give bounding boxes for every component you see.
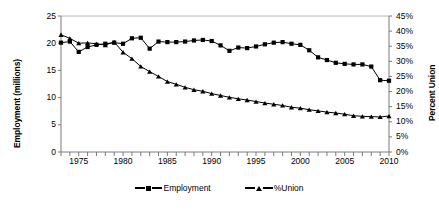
x-tick-label: 2005 [325, 157, 365, 166]
data-point-marker [192, 38, 196, 42]
y-tick-label: 10 [34, 93, 56, 102]
series-employment [59, 36, 391, 83]
data-point-marker [298, 43, 302, 47]
data-point-marker [325, 58, 329, 62]
x-tick-label: 1975 [59, 157, 99, 166]
data-point-marker [165, 40, 169, 44]
data-point-marker [67, 36, 72, 40]
legend-item-percent-union[interactable]: %Union [245, 183, 304, 193]
data-point-marker [343, 62, 347, 66]
data-point-marker [85, 45, 89, 49]
y2-tick-label: 15% [396, 102, 413, 111]
legend-line-icon [152, 187, 162, 188]
data-point-marker [130, 36, 134, 40]
legend-line-icon [135, 187, 145, 188]
x-tick-label: 1995 [236, 157, 276, 166]
square-marker-icon [146, 186, 151, 191]
series-line [61, 35, 389, 117]
data-point-marker [210, 39, 214, 43]
x-tick-label: 2000 [280, 157, 320, 166]
y2-tick-label: 10% [396, 117, 413, 126]
data-point-marker [201, 38, 205, 42]
legend-line-icon [263, 187, 273, 188]
data-point-marker [369, 64, 373, 68]
y-axis-title-right: Percent Union [427, 65, 437, 121]
data-point-marker [227, 49, 231, 53]
data-point-marker [360, 62, 364, 66]
x-tick-label: 1990 [192, 157, 232, 166]
data-point-marker [218, 43, 222, 47]
data-point-marker [245, 46, 249, 50]
data-point-marker [254, 44, 258, 48]
y-axis-title-left: Employment (millions) [12, 59, 22, 148]
y2-tick-label: 5% [396, 132, 408, 141]
data-point-marker [281, 40, 285, 44]
data-point-marker [174, 82, 179, 86]
data-point-marker [387, 79, 391, 83]
data-point-marker [156, 39, 160, 43]
chart-figure: Employment (millions) Percent Union 0510… [0, 0, 439, 211]
x-tick-label: 2010 [369, 157, 409, 166]
y2-tick-label: 25% [396, 72, 413, 81]
data-point-marker [334, 61, 338, 65]
data-point-marker [183, 39, 187, 43]
data-point-marker [289, 42, 293, 46]
x-tick-label: 1980 [103, 157, 143, 166]
legend-label: %Union [274, 183, 304, 193]
data-point-marker [236, 45, 240, 49]
y2-tick-label: 35% [396, 42, 413, 51]
data-point-marker [139, 36, 143, 40]
data-point-marker [77, 50, 81, 54]
y2-tick-label: 20% [396, 87, 413, 96]
data-point-marker [59, 41, 63, 45]
data-point-marker [316, 55, 320, 59]
data-point-marker [174, 40, 178, 44]
data-point-marker [378, 78, 382, 82]
y-tick-label: 25 [34, 12, 56, 21]
y-tick-label: 5 [34, 120, 56, 129]
series-percent-union [58, 33, 391, 120]
data-point-marker [263, 42, 267, 46]
data-point-marker [351, 62, 355, 66]
y2-tick-label: 30% [396, 57, 413, 66]
data-point-marker [148, 47, 152, 51]
chart-legend: Employment %Union [0, 183, 439, 193]
y2-tick-label: 0% [396, 148, 408, 157]
legend-item-employment[interactable]: Employment [135, 183, 210, 193]
data-point-marker [307, 48, 311, 52]
y2-tick-label: 45% [396, 12, 413, 21]
y-tick-label: 0 [34, 148, 56, 157]
triangle-marker-icon [256, 186, 262, 191]
data-point-marker [121, 42, 125, 46]
data-point-marker [272, 41, 276, 45]
series-line [61, 38, 389, 81]
plot-area [0, 0, 439, 211]
data-point-marker [58, 33, 63, 37]
y-tick-label: 15 [34, 66, 56, 75]
legend-label: Employment [163, 183, 210, 193]
legend-line-icon [245, 187, 255, 188]
y2-tick-label: 40% [396, 27, 413, 36]
x-tick-label: 1985 [147, 157, 187, 166]
y-tick-label: 20 [34, 39, 56, 48]
